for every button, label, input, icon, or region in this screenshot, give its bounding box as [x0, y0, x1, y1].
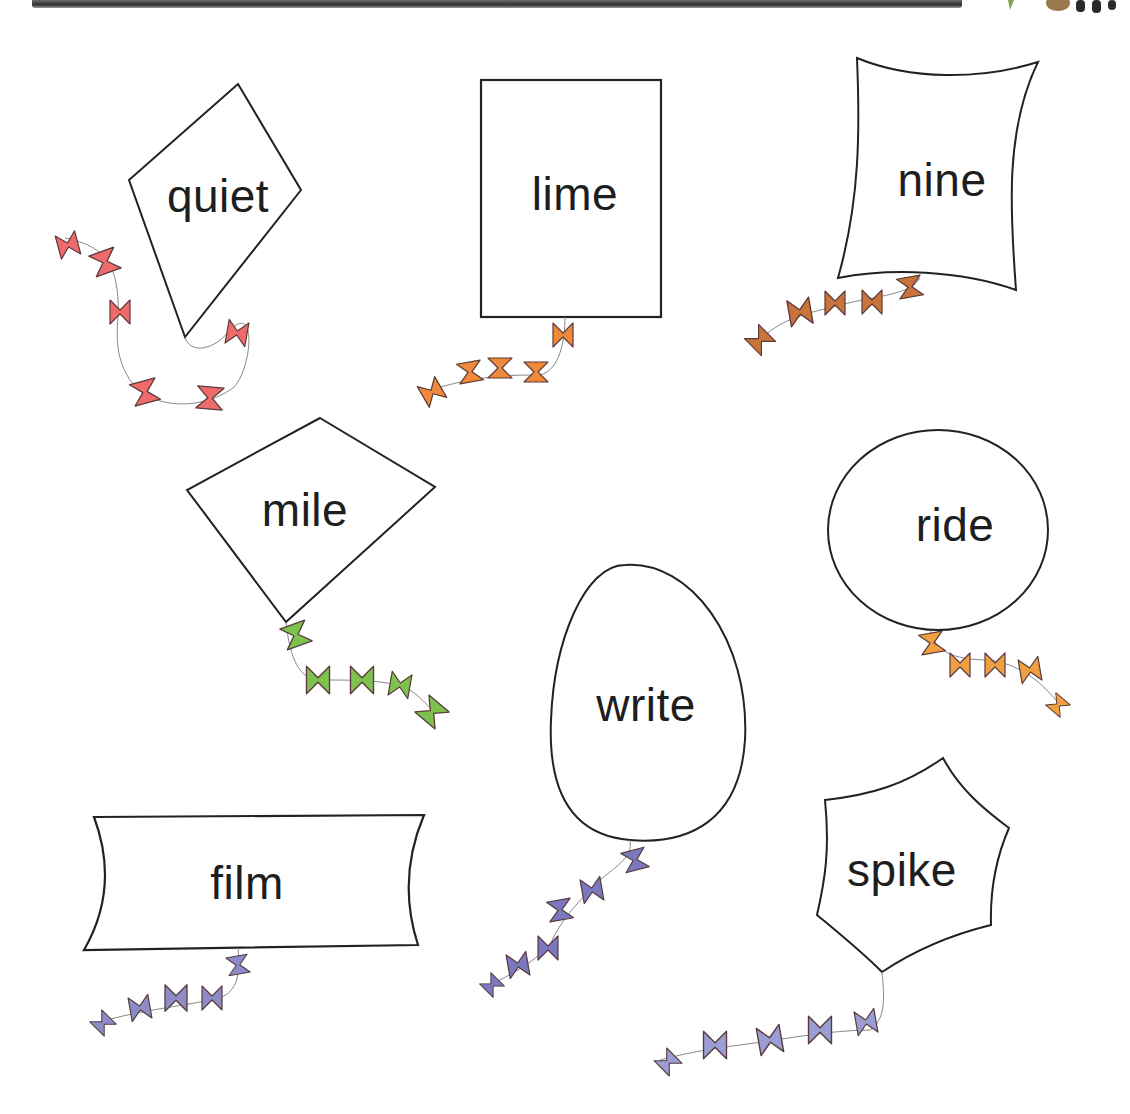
kite-word-ride: ride	[916, 498, 995, 552]
kite-word-nine: nine	[898, 153, 987, 207]
kite-write	[480, 565, 746, 998]
kite-word-mile: mile	[262, 483, 348, 537]
kite-mile	[187, 418, 449, 729]
kite-quiet	[55, 84, 301, 410]
kite-word-quiet: quiet	[167, 169, 269, 223]
kite-word-spike: spike	[847, 843, 957, 897]
kite-film	[84, 815, 424, 1036]
kite-word-lime: lime	[532, 167, 618, 221]
kite-ride	[828, 430, 1070, 717]
kite-word-write: write	[596, 678, 696, 732]
kite-word-film: film	[210, 856, 284, 910]
kite-lime	[417, 80, 661, 407]
kite-nine	[744, 58, 1038, 356]
